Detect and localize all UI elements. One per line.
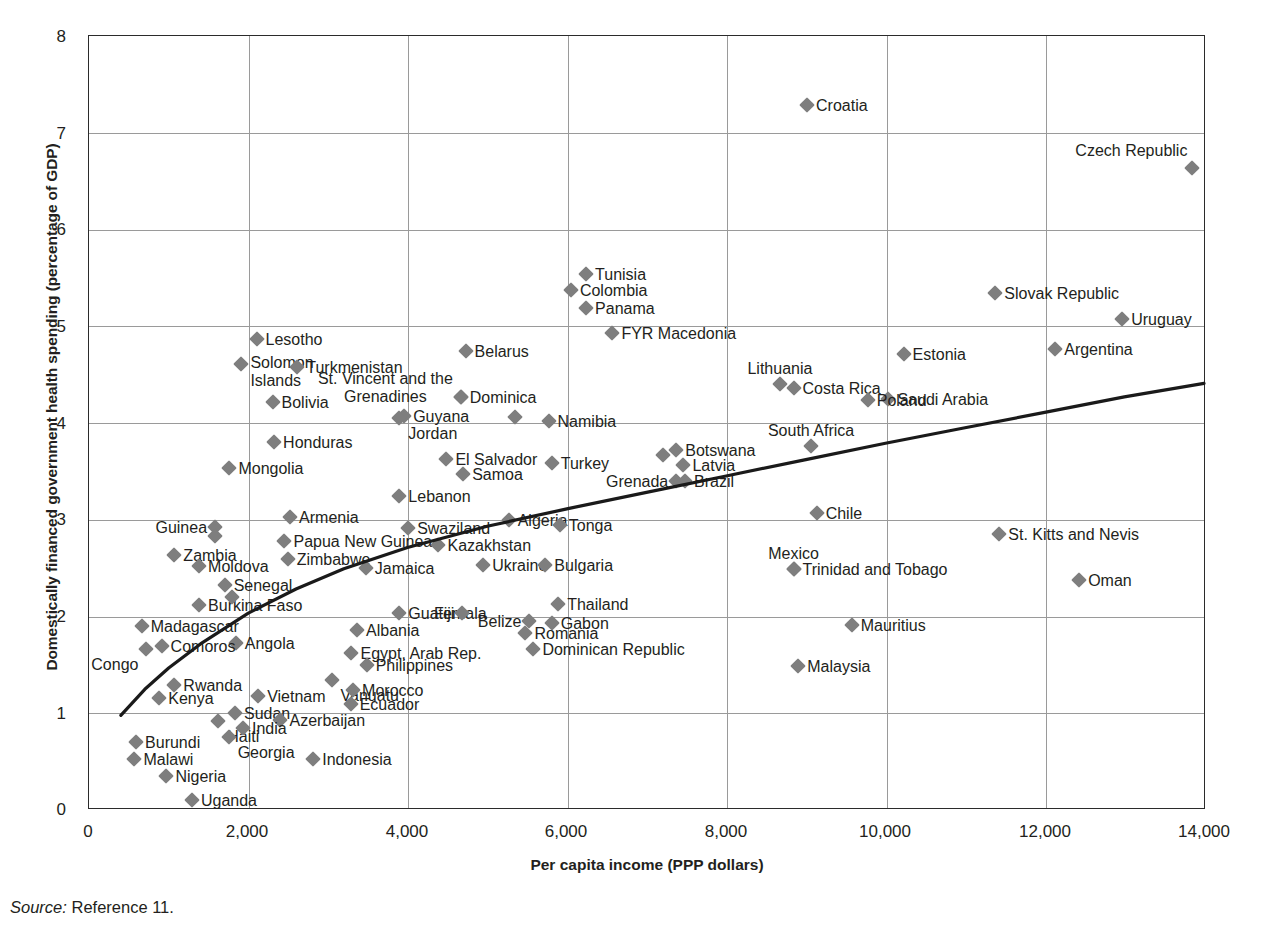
data-point-label: Romania — [534, 624, 598, 641]
y-tick-5: 5 — [22, 317, 66, 337]
x-tick-6000: 6,000 — [506, 822, 626, 842]
data-point-label: Poland — [877, 391, 927, 408]
data-point-label: Philippines — [376, 656, 453, 673]
data-point-label: Solomon Islands — [250, 354, 313, 390]
x-tick-10000: 10,000 — [825, 822, 945, 842]
data-point-label: Azerbaijan — [289, 712, 365, 729]
data-point-label: St. Kitts and Nevis — [1008, 526, 1139, 543]
data-point-label: Estonia — [913, 346, 966, 363]
data-point-label: South Africa — [768, 422, 854, 439]
data-point-label: Guinea — [155, 518, 207, 535]
data-point-label: Tonga — [569, 516, 613, 533]
data-point-label: Samoa — [472, 466, 523, 483]
data-point-label: Mongolia — [238, 460, 303, 477]
gridline-y-2 — [89, 617, 1204, 618]
data-point-label: Lebanon — [408, 487, 470, 504]
gridline-y-4 — [89, 423, 1204, 424]
data-point-label: Angola — [245, 634, 295, 651]
data-point-label: Oman — [1088, 571, 1132, 588]
data-point-label: Brazil — [694, 473, 734, 490]
data-point-label: Mexico — [768, 545, 819, 562]
source-note: Source: Reference 11. — [10, 898, 174, 917]
data-point-label: Namibia — [558, 413, 617, 430]
data-point-label: Nigeria — [175, 768, 226, 785]
gridline-x-2000 — [249, 36, 250, 808]
data-point-label: Lesotho — [266, 330, 323, 347]
data-point-label: Chile — [826, 504, 862, 521]
data-point-label: Dominican Republic — [542, 641, 684, 658]
data-point-label: Tunisia — [595, 266, 646, 283]
data-point-label: Turkey — [561, 454, 609, 471]
data-point-label: Senegal — [234, 576, 293, 593]
x-tick-14000: 14,000 — [1144, 822, 1264, 842]
data-point-label: Comoros — [171, 638, 236, 655]
data-point-label: Fiji — [434, 604, 454, 621]
data-point-label: Armenia — [299, 508, 359, 525]
data-point-label: Uganda — [201, 792, 257, 809]
data-point-label: Slovak Republic — [1004, 285, 1119, 302]
data-point-label: Colombia — [580, 282, 648, 299]
data-point-label: FYR Macedonia — [621, 325, 736, 342]
data-point-label: Malawi — [143, 750, 193, 767]
x-tick-2000: 2,000 — [187, 822, 307, 842]
data-point-label: Kazakhstan — [447, 536, 531, 553]
data-point-label: Argentina — [1064, 340, 1133, 357]
data-point-label: Dominica — [470, 388, 537, 405]
y-axis-title: Domestically financed government health … — [43, 77, 61, 737]
gridline-y-3 — [89, 520, 1204, 521]
data-point-label: India — [252, 719, 287, 736]
data-point-label: Trinidad and Tobago — [803, 561, 948, 578]
data-point-label: Georgia — [238, 744, 295, 761]
gridline-y-6 — [89, 230, 1204, 231]
gridline-x-12000 — [1046, 36, 1047, 808]
data-point-label: Jamaica — [375, 560, 435, 577]
x-axis-title: Per capita income (PPP dollars) — [88, 856, 1206, 874]
data-point-label: Madagascar — [151, 618, 239, 635]
data-point-label: Panama — [595, 299, 655, 316]
y-tick-1: 1 — [22, 704, 66, 724]
data-point-label: Albania — [366, 622, 419, 639]
y-tick-2: 2 — [22, 607, 66, 627]
data-point-label: Lithuania — [747, 360, 812, 377]
data-point-label: Burkina Faso — [208, 596, 302, 613]
data-point-label: Guyana — [413, 408, 469, 425]
y-tick-3: 3 — [22, 510, 66, 530]
gridline-x-10000 — [887, 36, 888, 808]
data-point-label: El Salvador — [455, 450, 537, 467]
data-point-label: Thailand — [567, 595, 628, 612]
x-tick-0: 0 — [28, 822, 148, 842]
data-point-label: Latvia — [692, 456, 735, 473]
data-point-label: Papua New Guinea — [293, 533, 432, 550]
data-point-label: Congo — [91, 656, 138, 673]
data-point-label: Kenya — [168, 689, 213, 706]
y-tick-4: 4 — [22, 414, 66, 434]
data-point-label: Burundi — [145, 734, 200, 751]
y-tick-8: 8 — [22, 27, 66, 47]
data-point-label: Bulgaria — [554, 557, 613, 574]
y-tick-6: 6 — [22, 220, 66, 240]
data-point-label: Belarus — [475, 343, 529, 360]
data-point-label: Honduras — [283, 434, 352, 451]
data-point-label: Jordan — [408, 425, 457, 442]
data-point-label: Ecuador — [360, 695, 420, 712]
data-point-label: Belize — [478, 613, 522, 630]
x-tick-8000: 8,000 — [666, 822, 786, 842]
source-value: Reference 11. — [67, 898, 174, 916]
data-point-label: Czech Republic — [1075, 141, 1187, 158]
data-point-label: Malaysia — [807, 657, 870, 674]
data-point-label: Mauritius — [861, 617, 926, 634]
data-point-label: Moldova — [208, 558, 268, 575]
y-tick-0: 0 — [22, 800, 66, 820]
figure-scatter-health-spending: Domestically financed government health … — [0, 0, 1268, 934]
y-tick-7: 7 — [22, 124, 66, 144]
data-point-label: Indonesia — [322, 750, 391, 767]
data-point-label: Vietnam — [267, 687, 325, 704]
x-tick-12000: 12,000 — [985, 822, 1105, 842]
x-tick-4000: 4,000 — [347, 822, 467, 842]
data-point-label: St. Vincent and the Grenadines — [318, 370, 453, 406]
data-point-label: Bolivia — [282, 393, 329, 410]
gridline-x-8000 — [727, 36, 728, 808]
data-point-label: Uruguay — [1131, 310, 1191, 327]
data-point-label: Croatia — [816, 96, 868, 113]
plot-area: CroatiaCzech RepublicTunisiaColombiaPana… — [88, 35, 1205, 809]
